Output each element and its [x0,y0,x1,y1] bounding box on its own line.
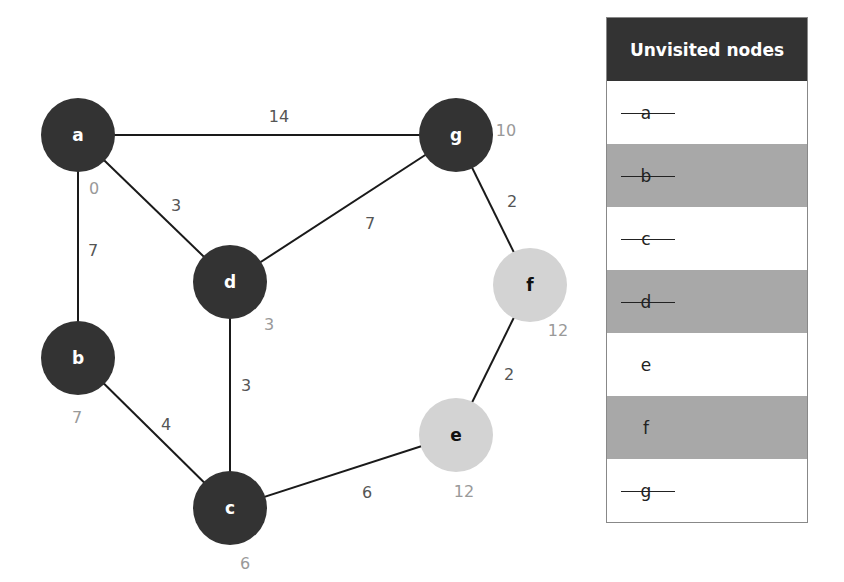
node-e: e12 [419,398,493,501]
node-name-f: f [631,418,661,438]
node-distance-a: 0 [89,179,99,198]
node-label-g: g [450,125,462,145]
nodes: a0b7c6d3e12f12g10 [41,98,568,573]
node-b: b7 [41,321,115,427]
table-rows: abcdefg [607,81,807,522]
node-c: c6 [193,471,267,573]
graph-diagram: 1437723426 a0b7c6d3e12f12g10 [0,0,600,582]
edge-weight-d-c: 3 [241,376,251,395]
node-name-d: d [631,292,661,312]
edge-d-g [230,135,456,282]
node-g: g10 [419,98,516,172]
node-distance-c: 6 [240,554,250,573]
edge-weight-a-g: 14 [269,107,289,126]
node-name-g: g [631,481,661,501]
table-header: Unvisited nodes [607,18,807,81]
node-label-e: e [450,425,462,445]
table-row-g: g [607,459,807,522]
node-name-a: a [631,103,661,123]
table-row-f: f [607,396,807,459]
edge-weight-b-c: 4 [161,415,171,434]
node-label-d: d [224,272,236,292]
edge-weight-g-f: 2 [507,192,517,211]
node-d: d3 [193,245,274,334]
node-name-b: b [631,166,661,186]
unvisited-nodes-table: Unvisited nodes abcdefg [606,17,808,523]
node-f: f12 [493,248,568,340]
edge-weight-c-e: 6 [362,483,372,502]
node-label-c: c [225,498,235,518]
table-row-c: c [607,207,807,270]
edge-weight-a-b: 7 [88,241,98,260]
edge-weight-d-g: 7 [365,214,375,233]
node-distance-e: 12 [454,482,474,501]
table-row-a: a [607,81,807,144]
node-distance-g: 10 [496,121,516,140]
node-label-a: a [72,125,83,145]
table-row-e: e [607,333,807,396]
node-distance-d: 3 [264,315,274,334]
node-distance-b: 7 [72,408,82,427]
node-distance-f: 12 [548,321,568,340]
node-label-f: f [526,275,534,295]
edge-weight-f-e: 2 [504,365,514,384]
table-row-d: d [607,270,807,333]
table-row-b: b [607,144,807,207]
edge-weight-a-d: 3 [171,196,181,215]
node-name-c: c [631,229,661,249]
node-label-b: b [72,348,84,368]
node-name-e: e [631,355,661,375]
